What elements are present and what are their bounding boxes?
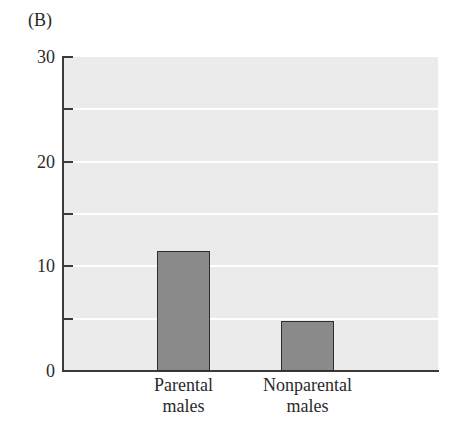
y-tick [63, 108, 73, 110]
panel-label: (B) [28, 10, 52, 31]
bar-nonparental-males [281, 321, 334, 371]
gridline [63, 213, 438, 215]
gridline [63, 318, 438, 320]
y-tick [63, 213, 73, 215]
y-tick-label: 0 [15, 362, 55, 380]
y-tick-label: 10 [15, 257, 55, 275]
gridline [63, 108, 438, 110]
x-tick-label: Parentalmales [114, 375, 254, 417]
gridline [63, 265, 438, 267]
x-axis-line [62, 370, 439, 372]
x-tick-label: Nonparentalmales [238, 375, 378, 417]
gridline [63, 161, 438, 163]
bar-parental-males [157, 251, 210, 371]
y-tick-label: 30 [15, 48, 55, 66]
y-tick [63, 56, 73, 58]
y-tick [63, 318, 73, 320]
y-tick-label: 20 [15, 153, 55, 171]
y-tick [63, 161, 73, 163]
y-tick [63, 265, 73, 267]
plot-area [63, 57, 438, 371]
